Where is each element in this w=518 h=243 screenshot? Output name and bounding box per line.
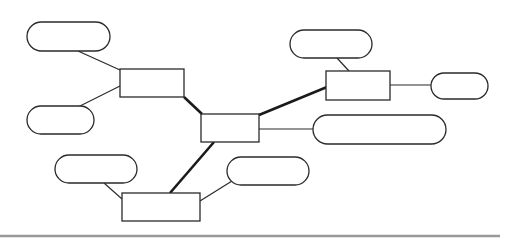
rect-shape xyxy=(201,114,259,142)
pill-shape xyxy=(313,115,446,144)
node-box-right xyxy=(326,71,390,100)
nodes-layer xyxy=(27,22,488,221)
edge-pill-top-right-to-box-right xyxy=(337,58,349,71)
edge-pill-low-left-to-box-bottom xyxy=(104,183,122,199)
node-pill-top-right xyxy=(290,30,372,58)
edge-pill-mid-left-to-box-left xyxy=(78,86,120,107)
node-box-center xyxy=(201,114,259,142)
node-pill-top-left xyxy=(27,22,110,51)
node-pill-mid-left xyxy=(27,106,94,134)
edge-pill-top-left-to-box-left xyxy=(78,51,120,70)
pill-shape xyxy=(27,106,94,134)
edge-box-left-to-box-center xyxy=(184,97,202,114)
rect-shape xyxy=(326,71,390,100)
rect-shape xyxy=(120,69,184,97)
rect-shape xyxy=(122,193,200,221)
pill-shape xyxy=(227,157,309,185)
pill-shape xyxy=(290,30,372,58)
pill-shape xyxy=(431,73,488,99)
node-pill-wide-right xyxy=(313,115,446,144)
edge-box-center-to-box-bottom xyxy=(170,142,214,193)
network-diagram xyxy=(0,0,518,243)
edge-box-center-to-box-right xyxy=(259,87,327,115)
node-pill-low-right xyxy=(227,157,309,185)
node-pill-low-left xyxy=(55,155,137,183)
edge-pill-low-right-to-box-bottom xyxy=(200,181,232,201)
pill-shape xyxy=(27,22,110,51)
node-box-bottom xyxy=(122,193,200,221)
node-box-left xyxy=(120,69,184,97)
pill-shape xyxy=(55,155,137,183)
node-pill-far-right xyxy=(431,73,488,99)
